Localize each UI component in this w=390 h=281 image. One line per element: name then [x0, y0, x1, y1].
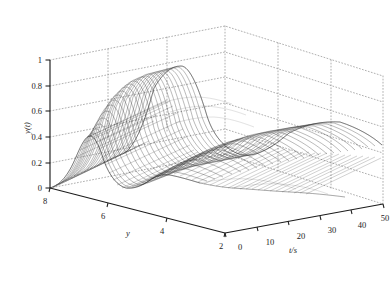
y-tick-label: 8	[43, 196, 47, 206]
x-tick-label: 20	[297, 231, 306, 241]
figure-3d-surface-plot: 1 0.8 0.6 0.4 0.2 0 y(t) 8 6 4 2 y 0 10 …	[0, 0, 390, 281]
z-axis-title: y(t)	[22, 122, 32, 135]
x-tick-label: 10	[266, 237, 275, 247]
y-axis-title: y	[125, 228, 130, 238]
z-tick-label: 1	[38, 55, 42, 65]
x-tick-label: 0	[238, 242, 242, 252]
x-tick-label: 40	[358, 220, 367, 230]
y-tick-label: 4	[160, 226, 165, 236]
z-tick-label: 0.8	[31, 81, 42, 91]
z-tick-label: 0.6	[31, 106, 42, 116]
x-axis-title: t/s	[289, 245, 298, 255]
z-tick-label: 0	[38, 183, 42, 193]
x-tick-label: 30	[328, 225, 337, 235]
y-tick-label: 2	[219, 241, 223, 251]
mesh-surface	[50, 66, 382, 197]
x-tick-label: 50	[381, 213, 390, 223]
z-tick-label: 0.4	[31, 132, 42, 142]
plot-canvas: 1 0.8 0.6 0.4 0.2 0 y(t) 8 6 4 2 y 0 10 …	[0, 0, 390, 281]
z-tick-label: 0.2	[31, 158, 42, 168]
y-tick-label: 6	[101, 211, 105, 221]
